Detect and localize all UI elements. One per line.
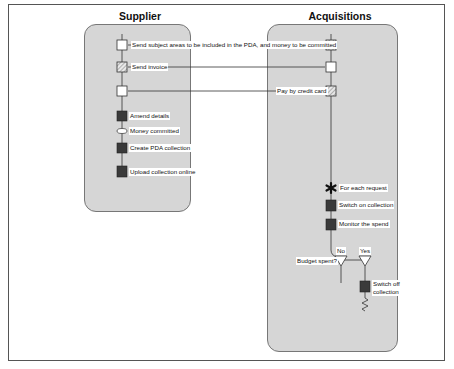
step-switch-on: Switch on collection: [338, 201, 394, 209]
step-upload-collection: Upload collection online: [129, 168, 196, 176]
step-create-pda: Create PDA collection: [129, 144, 191, 152]
message-label-subjects: Send subject areas to be included in the…: [131, 41, 337, 49]
send-invoice-box: [117, 62, 127, 72]
step-switch-off-line1: Switch off: [372, 280, 401, 288]
message-label-pay: Pay by credit card: [276, 87, 328, 95]
send-subject-box: [117, 40, 127, 50]
step-amend-details: Amend details: [129, 112, 170, 120]
decision-no-label: No: [336, 247, 346, 255]
step-monitor-spend: Monitor the spend: [338, 220, 390, 228]
decision-question: Budget spent?: [296, 257, 338, 265]
pay-receive-box: [117, 86, 127, 96]
step-for-each-request: For each request: [339, 184, 388, 192]
decision-yes-label: Yes: [359, 247, 371, 255]
message-label-invoice: Send invoice: [131, 63, 168, 71]
step-money-committed: Money committed: [129, 127, 180, 135]
step-switch-off-line2: collection: [372, 288, 400, 296]
